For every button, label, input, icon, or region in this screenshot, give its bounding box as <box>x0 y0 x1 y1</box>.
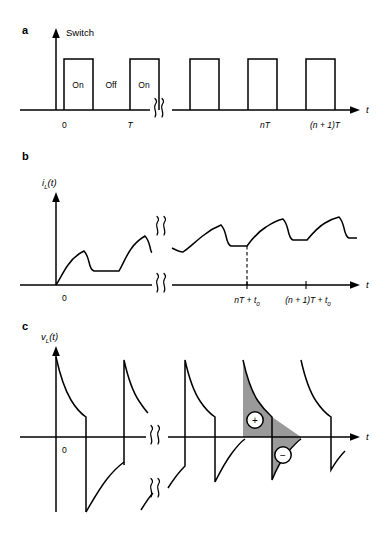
panel-c-y-arrowhead <box>52 346 60 356</box>
panel-a-state-off: Off <box>105 80 117 90</box>
panel-a-tick-origin: 0 <box>62 120 67 130</box>
panel-b-break-axis <box>157 274 166 293</box>
panel-a-y-arrowhead <box>52 28 60 38</box>
panel-b-y-arrowhead <box>52 192 60 202</box>
panel-a-pulse-3 <box>190 59 219 110</box>
panel-a-pulse-5 <box>306 59 335 110</box>
panel-a-tick-nT: nT <box>260 120 271 130</box>
panel-c-waveform-seg2-tail <box>141 493 153 510</box>
panel-c-break-axis <box>151 426 160 445</box>
panel-a-state-on-2: On <box>138 80 150 90</box>
figure-root: a Switch t On Off On 0 T nT (n + 1)T b <box>0 0 385 536</box>
panel-c-area-marker-negative: − <box>275 447 291 463</box>
panel-b-waveform-left <box>56 236 152 285</box>
panel-a-x-label: t <box>366 104 369 115</box>
panel-b-x-label: t <box>366 279 369 290</box>
panel-b-break-wave <box>157 217 166 236</box>
panel-b-waveform-right <box>172 217 357 252</box>
panel-c-waveform-seg5 <box>301 360 345 470</box>
panel-c-tick-origin: 0 <box>62 445 67 455</box>
panel-a-x-arrowhead <box>350 106 360 114</box>
panel-b-tick-origin: 0 <box>62 293 67 303</box>
panel-b: b iL(t) t 0 nT + t0 (n + 1)T + t0 <box>20 150 369 307</box>
panel-b-letter: b <box>22 150 29 162</box>
panel-a-tick-T: T <box>127 120 133 130</box>
panel-a-tick-n1T: (n + 1)T <box>310 120 341 130</box>
panel-a-letter: a <box>22 24 29 36</box>
panel-c-letter: c <box>22 320 28 332</box>
panel-a-state-on-1: On <box>72 80 84 90</box>
panel-a-pulse-4 <box>248 59 277 110</box>
panel-c-area-marker-positive: + <box>247 412 263 428</box>
panel-c-plus-sign: + <box>252 415 258 426</box>
panel-c-minus-sign: − <box>280 450 286 461</box>
panel-c-waveform-seg1 <box>56 357 86 512</box>
waveform-figure: a Switch t On Off On 0 T nT (n + 1)T b <box>0 0 385 536</box>
panel-b-y-label: iL(t) <box>42 177 57 190</box>
panel-c-waveform-seg3 <box>168 360 245 488</box>
panel-c-x-label: t <box>366 431 369 442</box>
panel-c: c vL(t) t 0 <box>20 320 369 512</box>
panel-c-waveform-seg2 <box>86 360 148 512</box>
panel-c-y-label: vL(t) <box>41 331 58 344</box>
panel-c-x-arrowhead <box>350 433 360 441</box>
panel-b-tick-nTt0: nT + t0 <box>234 295 260 307</box>
panel-a: a Switch t On Off On 0 T nT (n + 1)T <box>20 24 369 130</box>
panel-a-y-label: Switch <box>66 27 94 38</box>
panel-b-x-arrowhead <box>350 281 360 289</box>
panel-b-tick-n1Tt0: (n + 1)T + t0 <box>285 295 331 307</box>
